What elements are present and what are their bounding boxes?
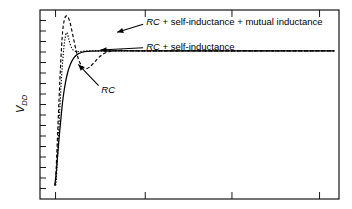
annotation-italic-prefix: RC <box>101 84 115 95</box>
annotation-label-mutual-inductance: RC + self-inductance + mutual inductance <box>146 16 322 27</box>
annotation-label-self-inductance: RC + self-inductance <box>146 40 234 51</box>
figure-container: RC + self-inductance + mutual inductance… <box>0 0 352 209</box>
chart-background <box>0 0 352 209</box>
annotation-rest: + self-inductance + mutual inductance <box>160 16 323 27</box>
annotation-rest: + self-inductance <box>160 40 235 51</box>
y-axis-label-subscript: DD <box>20 94 29 105</box>
annotation-label-rc: RC <box>101 84 115 95</box>
chart-canvas: RC + self-inductance + mutual inductance… <box>0 0 352 209</box>
annotation-italic-prefix: RC <box>146 16 160 27</box>
annotation-italic-prefix: RC <box>146 40 160 51</box>
